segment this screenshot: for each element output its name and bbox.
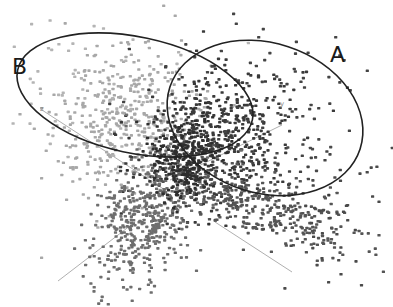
axis-z-label: z (40, 105, 44, 113)
cluster-label-a: A (330, 42, 345, 67)
axis-line-x-pos (215, 222, 292, 272)
cluster-label-b: B (12, 54, 27, 79)
scatter-plot: z y A B (0, 0, 393, 307)
axis-y-label: y (280, 100, 284, 108)
series-points (262, 115, 393, 290)
scatter-figure: z y A B (0, 0, 393, 307)
